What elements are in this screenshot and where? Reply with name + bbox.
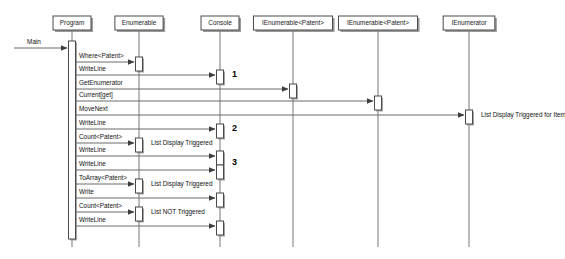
activation-bar[interactable] — [290, 84, 299, 100]
message-2[interactable]: WriteLine — [76, 65, 216, 75]
marker-2: 2 — [232, 123, 237, 133]
activation-rect[interactable] — [136, 179, 143, 193]
activation-rect[interactable] — [217, 193, 224, 207]
activation-rect[interactable] — [375, 96, 382, 110]
entry-point-label: Main — [27, 38, 41, 45]
message-label: WriteLine — [79, 146, 106, 153]
activation-bar[interactable] — [136, 207, 145, 223]
lifeline-label: IEnumerable<Patent> — [347, 19, 409, 26]
message-8[interactable]: WriteLine — [76, 146, 216, 156]
message-6[interactable]: WriteLine — [76, 119, 216, 129]
message-label: WriteLine — [79, 119, 106, 126]
note-note-3: List Display Triggered — [151, 180, 213, 188]
message-4[interactable]: Current[get] — [76, 91, 374, 101]
message-3[interactable]: GetEnumerator — [76, 79, 289, 89]
message-label: WriteLine — [79, 65, 106, 72]
activation-bar[interactable] — [217, 193, 226, 209]
lifeline-label: Console — [208, 19, 232, 26]
message-label: Count<Patent> — [79, 202, 122, 209]
lifeline-label: IEnumerable<Patent> — [262, 19, 324, 26]
note-note-2: List Display Triggered — [151, 139, 213, 147]
message-label: Write — [79, 188, 94, 195]
message-label: Where<Patent> — [79, 52, 124, 59]
lifeline-ienum1[interactable]: IEnumerable<Patent> — [253, 16, 334, 247]
message-1[interactable]: Where<Patent> — [76, 52, 135, 62]
activation-rect[interactable] — [217, 151, 224, 165]
message-label: MoveNext — [79, 105, 108, 112]
activation-rect[interactable] — [136, 207, 143, 221]
message-label: Count<Patent> — [79, 133, 122, 140]
activation-rect[interactable] — [69, 41, 76, 239]
activation-bar[interactable] — [136, 138, 145, 154]
lifeline-ienumerator[interactable]: IEnumerator — [443, 16, 497, 247]
activation-bar[interactable] — [217, 151, 226, 167]
activation-bar[interactable] — [217, 165, 226, 181]
activation-rect[interactable] — [217, 70, 224, 84]
message-layer: Where<Patent>WriteLineGetEnumeratorCurre… — [76, 52, 465, 226]
message-10[interactable]: ToArray<Patent> — [76, 174, 135, 184]
message-5[interactable]: MoveNext — [76, 105, 465, 115]
message-12[interactable]: Count<Patent> — [76, 202, 135, 212]
activation-bar[interactable] — [136, 179, 145, 195]
activation-bar[interactable] — [217, 124, 226, 140]
marker-1: 1 — [232, 69, 237, 79]
marker-layer: 123 — [232, 69, 237, 167]
activation-bar[interactable] — [217, 221, 226, 237]
message-11[interactable]: Write — [76, 188, 216, 198]
message-label: WriteLine — [79, 160, 106, 167]
message-label: Current[get] — [79, 91, 113, 99]
activation-rect[interactable] — [217, 124, 224, 138]
lifeline-label: Enumerable — [122, 19, 157, 26]
activation-rect[interactable] — [136, 138, 143, 152]
activation-layer — [69, 41, 475, 241]
note-note-1: List Display Triggered for Item — [481, 111, 565, 119]
activation-rect[interactable] — [136, 57, 143, 71]
lifeline-label: IEnumerator — [451, 19, 487, 26]
message-label: GetEnumerator — [79, 79, 124, 86]
note-note-4: List NOT Triggered — [151, 208, 205, 216]
activation-bar[interactable] — [375, 96, 384, 112]
message-label: ToArray<Patent> — [79, 174, 127, 182]
message-label: WriteLine — [79, 216, 106, 223]
message-9[interactable]: WriteLine — [76, 160, 216, 170]
sequence-diagram: ProgramEnumerableConsoleIEnumerable<Pate… — [0, 0, 565, 259]
activation-bar[interactable] — [217, 70, 226, 86]
activation-bar[interactable] — [69, 41, 78, 241]
activation-bar[interactable] — [466, 110, 475, 126]
message-13[interactable]: WriteLine — [76, 216, 216, 226]
activation-rect[interactable] — [466, 110, 473, 124]
activation-bar[interactable] — [136, 57, 145, 73]
marker-3: 3 — [232, 157, 237, 167]
lifeline-label: Program — [60, 19, 85, 27]
message-7[interactable]: Count<Patent> — [76, 133, 135, 143]
activation-rect[interactable] — [217, 221, 224, 235]
activation-rect[interactable] — [217, 165, 224, 179]
lifeline-ienum2[interactable]: IEnumerable<Patent> — [338, 16, 419, 247]
activation-rect[interactable] — [290, 84, 297, 98]
entry-point-layer: Main — [14, 38, 67, 48]
note-layer: List Display Triggered for ItemList Disp… — [151, 111, 565, 216]
